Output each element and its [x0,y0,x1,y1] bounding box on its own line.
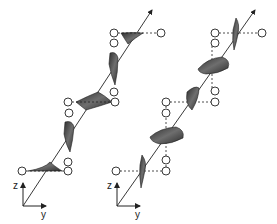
node [162,167,170,175]
lobe [233,18,239,50]
node [211,29,219,37]
node [111,98,119,106]
lobe [150,127,183,144]
right-axes: z y [107,180,140,220]
node [211,39,219,47]
node [112,167,120,175]
node [162,109,170,117]
lobe [64,122,74,152]
node [64,167,72,175]
node [110,88,118,96]
node [258,29,266,37]
lobe [109,53,118,85]
node [18,167,26,175]
diagram-canvas: z y z y [0,0,277,224]
z-axis-label: z [13,180,18,191]
z-axis-label: z [107,180,112,191]
node [64,158,72,166]
left-axes: z y [13,180,46,220]
left-panel: z y [13,10,165,220]
lobe [121,33,143,45]
node [64,98,72,106]
node [157,29,165,37]
y-axis-label: y [135,209,140,220]
node [211,87,219,95]
lobe [198,57,229,74]
node [162,98,170,106]
node [211,98,219,106]
lobe [76,92,112,110]
node [110,29,118,37]
node [162,156,170,164]
lobe [187,87,199,110]
lobe [28,162,62,171]
lobe [140,155,146,188]
node [65,109,73,117]
node [110,39,118,47]
y-axis-label: y [41,209,46,220]
